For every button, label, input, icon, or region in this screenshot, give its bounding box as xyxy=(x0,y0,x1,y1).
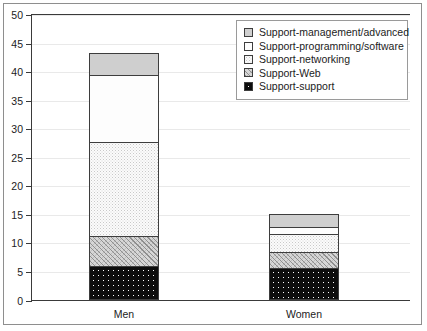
y-axis-label: 25 xyxy=(11,152,23,164)
y-axis-tick xyxy=(26,129,32,130)
bar-segment xyxy=(269,234,339,254)
bar-segment xyxy=(89,75,159,144)
y-axis-label: 45 xyxy=(11,38,23,50)
y-axis-tick xyxy=(26,243,32,244)
bar-segment xyxy=(269,268,339,299)
y-axis-tick xyxy=(26,15,32,16)
legend-item: Support-Web xyxy=(244,66,400,79)
y-axis-tick xyxy=(26,44,32,45)
legend-swatch-icon xyxy=(244,42,253,51)
legend-swatch-icon xyxy=(244,68,253,77)
x-axis-label: Women xyxy=(224,308,384,320)
bar-segment xyxy=(89,53,159,76)
legend-label: Support-networking xyxy=(259,54,350,65)
y-axis-label: 40 xyxy=(11,66,23,78)
legend-item: Support-networking xyxy=(244,53,400,66)
chart-legend: Support-management/advancedSupport-progr… xyxy=(236,20,408,100)
bar-segment xyxy=(89,236,159,266)
bar-segment xyxy=(89,266,159,300)
legend-item: Support-programming/software xyxy=(244,39,400,52)
y-axis-label: 10 xyxy=(11,237,23,249)
y-axis-tick xyxy=(26,101,32,102)
y-axis-tick xyxy=(26,301,32,302)
gridline xyxy=(32,15,410,16)
bar-segment xyxy=(269,252,339,269)
y-axis-tick xyxy=(26,158,32,159)
y-axis-tick xyxy=(26,215,32,216)
y-axis-label: 5 xyxy=(17,266,23,278)
legend-label: Support-programming/software xyxy=(259,41,404,52)
y-axis-tick xyxy=(26,186,32,187)
legend-item: Support-support xyxy=(244,80,400,93)
x-axis-label: Men xyxy=(44,308,204,320)
legend-swatch-icon xyxy=(244,55,253,64)
legend-item: Support-management/advanced xyxy=(244,26,400,39)
y-axis-label: 0 xyxy=(17,295,23,307)
y-axis-label: 50 xyxy=(11,9,23,21)
bar-segment xyxy=(89,142,159,237)
y-axis-tick xyxy=(26,272,32,273)
legend-label: Support-management/advanced xyxy=(259,27,409,38)
y-axis-label: 20 xyxy=(11,180,23,192)
y-axis-label: 15 xyxy=(11,209,23,221)
y-axis-tick xyxy=(26,72,32,73)
bar-women: Women xyxy=(269,214,339,298)
legend-label: Support-support xyxy=(259,81,334,92)
bar-men: Men xyxy=(89,53,159,298)
y-axis-label: 30 xyxy=(11,123,23,135)
legend-swatch-icon xyxy=(244,28,253,37)
legend-swatch-icon xyxy=(244,82,253,91)
legend-label: Support-Web xyxy=(259,68,321,79)
chart-figure: 05101520253035404550 MenWomen Support-ma… xyxy=(0,0,427,331)
y-axis-label: 35 xyxy=(11,95,23,107)
